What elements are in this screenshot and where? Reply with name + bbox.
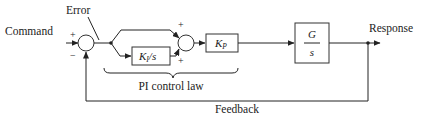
feedback-label: Feedback [215,103,259,115]
pi-control-law-label: PI control law [138,80,204,92]
pi-control-brace [104,68,238,78]
response-label: Response [369,22,413,35]
error-label: Error [66,4,90,16]
sum1-minus-sign: − [70,50,76,61]
pi-control-block-diagram: Command + − Error + KI/s + KP G s Respon… [0,0,424,122]
sum1-plus-sign: + [70,29,76,40]
plant-numerator: G [308,28,316,40]
summing-junction-1 [78,35,94,51]
command-label: Command [5,25,53,37]
summing-junction-2 [178,35,194,51]
plant-denominator: s [310,46,314,58]
sum2-plus-bottom: + [178,55,184,66]
sum2-plus-top: + [178,19,184,30]
integral-input-path [111,43,131,56]
proportional-path [111,30,179,43]
